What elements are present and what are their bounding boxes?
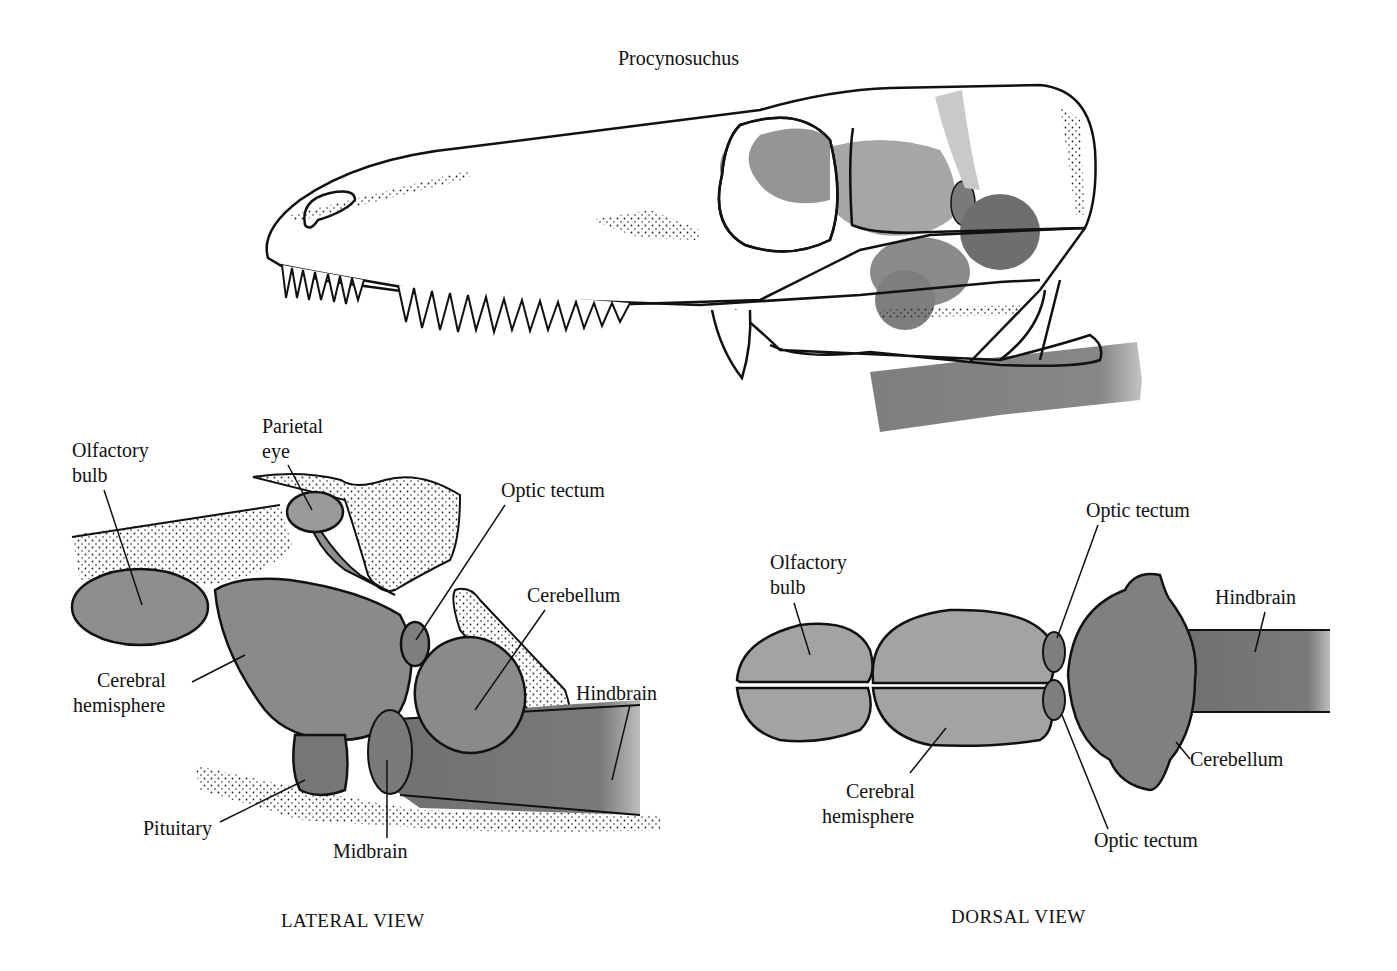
label-parietal-eye: Parietal eye (262, 414, 323, 464)
skull-drawing (267, 85, 1142, 432)
label-olfactory-bulb-dorsal: Olfactory bulb (770, 550, 847, 600)
caption-dorsal-view: DORSAL VIEW (951, 906, 1086, 928)
label-pituitary: Pituitary (143, 816, 212, 841)
label-line: Parietal (262, 414, 323, 439)
label-olfactory-bulb-lateral: Olfactory bulb (72, 438, 149, 488)
label-optic-tectum-dorsal-top: Optic tectum (1086, 498, 1190, 523)
label-line: Olfactory (770, 550, 847, 575)
label-line: bulb (770, 575, 847, 600)
label-line: Olfactory (72, 438, 149, 463)
label-optic-tectum-lateral: Optic tectum (501, 478, 605, 503)
label-hindbrain-lateral: Hindbrain (576, 681, 657, 706)
label-line: bulb (72, 463, 149, 488)
label-line: hemisphere (73, 693, 166, 718)
label-midbrain: Midbrain (333, 839, 407, 864)
label-cerebral-hemisphere-dorsal: Cerebral hemisphere (822, 779, 915, 829)
label-cerebral-hemisphere-lateral: Cerebral hemisphere (97, 668, 166, 718)
label-hindbrain-dorsal: Hindbrain (1215, 585, 1296, 610)
figure-title: Procynosuchus (618, 46, 739, 71)
label-line: Cerebral (822, 779, 915, 804)
lateral-view-drawing (72, 465, 660, 838)
label-cerebellum-dorsal: Cerebellum (1190, 747, 1283, 772)
label-line: eye (262, 439, 323, 464)
label-line: Cerebral (97, 668, 166, 693)
label-line: hemisphere (822, 804, 915, 829)
caption-lateral-view: LATERAL VIEW (281, 910, 425, 932)
label-cerebellum-lateral: Cerebellum (527, 583, 620, 608)
label-optic-tectum-dorsal-bottom: Optic tectum (1094, 828, 1198, 853)
